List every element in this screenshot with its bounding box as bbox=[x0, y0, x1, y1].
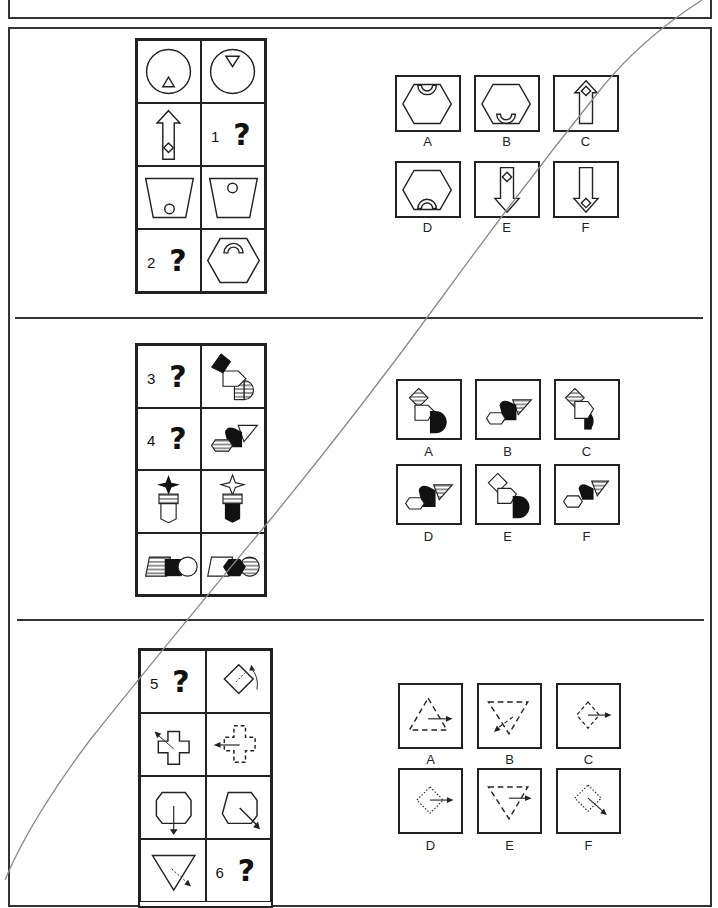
option-label: E bbox=[478, 838, 541, 853]
section-2-grid: 3 ? 4 ? bbox=[135, 343, 267, 597]
option-label: A bbox=[397, 444, 460, 459]
option-1-F[interactable] bbox=[553, 161, 619, 218]
option-label: A bbox=[396, 134, 459, 149]
section-divider-1 bbox=[15, 317, 703, 319]
question-number: 6 bbox=[216, 864, 224, 881]
option-3-C[interactable] bbox=[556, 683, 621, 749]
option-3-A[interactable] bbox=[398, 683, 463, 749]
question-mark: ? bbox=[238, 853, 255, 888]
option-2-B[interactable] bbox=[475, 379, 541, 440]
option-label: B bbox=[476, 444, 539, 459]
option-label: D bbox=[396, 220, 459, 235]
figure-white-star-striped-black-shield bbox=[201, 470, 265, 533]
section-divider-2 bbox=[17, 619, 704, 621]
option-1-E[interactable] bbox=[474, 161, 540, 218]
figure-cross-arrow-up-left bbox=[140, 713, 206, 776]
option-label: B bbox=[478, 752, 541, 767]
section-3-grid: 5 ? 6 ? bbox=[138, 648, 273, 908]
question-5-cell[interactable]: 5 ? bbox=[140, 650, 206, 713]
question-mark: ? bbox=[172, 664, 189, 699]
option-3-E[interactable] bbox=[477, 768, 542, 834]
figure-inverted-triangle-arrow-down-right bbox=[140, 839, 206, 902]
figure-striped-parallelogram-black-square-white-circle bbox=[137, 533, 201, 596]
figure-circle-triangle-top bbox=[201, 40, 265, 103]
question-1-cell[interactable]: 1 ? bbox=[201, 103, 265, 166]
question-mark: ? bbox=[169, 243, 186, 278]
option-1-B[interactable] bbox=[474, 75, 540, 132]
option-label: F bbox=[555, 529, 618, 544]
question-number: 3 bbox=[147, 370, 155, 387]
question-mark: ? bbox=[169, 359, 186, 394]
option-2-F[interactable] bbox=[554, 464, 620, 525]
option-label: D bbox=[399, 838, 462, 853]
figure-black-diamond-pentagon-striped-halfcircle bbox=[201, 345, 265, 408]
option-3-B[interactable] bbox=[477, 683, 542, 749]
option-2-C[interactable] bbox=[554, 379, 620, 440]
option-3-F[interactable] bbox=[556, 768, 621, 834]
option-label: E bbox=[475, 220, 538, 235]
option-2-A[interactable] bbox=[396, 379, 462, 440]
option-1-A[interactable] bbox=[395, 75, 461, 132]
option-label: F bbox=[557, 838, 620, 853]
section-1-grid: 1 ? 2 ? bbox=[135, 38, 267, 294]
figure-trapezoid-circle-bottom bbox=[137, 166, 201, 229]
figure-black-star-striped-white-shield bbox=[137, 470, 201, 533]
question-3-cell[interactable]: 3 ? bbox=[137, 345, 201, 408]
option-2-E[interactable] bbox=[475, 464, 541, 525]
question-mark: ? bbox=[169, 421, 186, 456]
option-label: E bbox=[476, 529, 539, 544]
option-1-D[interactable] bbox=[395, 161, 461, 218]
question-number: 4 bbox=[147, 432, 155, 449]
figure-inverted-trapezoid-circle-top bbox=[201, 166, 265, 229]
option-label: C bbox=[554, 134, 617, 149]
figure-up-arrow-diamond-bottom bbox=[137, 103, 201, 166]
question-mark: ? bbox=[233, 117, 250, 152]
question-number: 1 bbox=[211, 128, 219, 145]
option-2-D[interactable] bbox=[396, 464, 462, 525]
figure-hexagon-arch-top bbox=[201, 229, 265, 292]
option-label: F bbox=[554, 220, 617, 235]
top-frame bbox=[8, 0, 712, 19]
question-number: 2 bbox=[147, 254, 155, 271]
figure-circle-triangle-bottom bbox=[137, 40, 201, 103]
option-label: A bbox=[399, 752, 462, 767]
figure-rotated-square-curved-arrow bbox=[206, 650, 272, 713]
question-6-cell[interactable]: 6 ? bbox=[206, 839, 272, 902]
figure-white-parallelogram-black-hexagon-striped-circle bbox=[201, 533, 265, 596]
question-2-cell[interactable]: 2 ? bbox=[137, 229, 201, 292]
figure-striped-hexagon-black-blob-triangle bbox=[201, 408, 265, 471]
figure-octagon-arrow-down bbox=[140, 776, 206, 839]
question-number: 5 bbox=[150, 675, 158, 692]
option-3-D[interactable] bbox=[398, 768, 463, 834]
option-label: B bbox=[475, 134, 538, 149]
option-label: C bbox=[557, 752, 620, 767]
figure-octagon-arrow-down-right bbox=[206, 776, 272, 839]
option-label: D bbox=[397, 529, 460, 544]
figure-dashed-cross-arrow-left bbox=[206, 713, 272, 776]
option-1-C[interactable] bbox=[553, 75, 619, 132]
question-4-cell[interactable]: 4 ? bbox=[137, 408, 201, 471]
option-label: C bbox=[555, 444, 618, 459]
